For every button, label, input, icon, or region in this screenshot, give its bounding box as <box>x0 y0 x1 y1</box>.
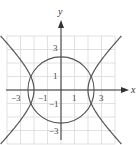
x-tick-label: −1 <box>38 93 48 103</box>
y-axis-arrow-icon <box>58 20 64 28</box>
x-tick-label: 3 <box>99 93 104 103</box>
x-axis <box>6 87 129 93</box>
x-tick-label: −3 <box>11 93 21 103</box>
x-axis-arrow-icon <box>121 87 129 93</box>
y-axis-label: y <box>57 6 63 17</box>
y-tick-label: 1 <box>53 71 58 81</box>
y-tick-label: −3 <box>49 126 59 136</box>
x-tick-label: 1 <box>72 93 77 103</box>
y-axis <box>58 20 64 140</box>
graph: x y −3 −1 1 3 3 1 −1 −3 <box>0 0 137 145</box>
y-tick-label: −1 <box>49 99 59 109</box>
x-axis-label: x <box>130 84 136 95</box>
y-tick-label: 3 <box>53 43 58 53</box>
